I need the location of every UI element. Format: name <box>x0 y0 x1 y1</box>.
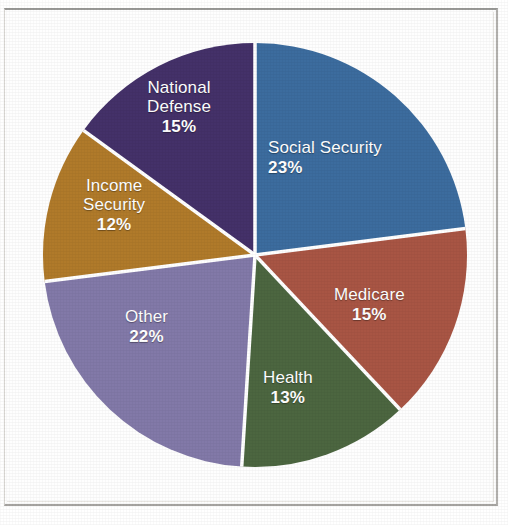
pie-slice-other <box>45 255 255 467</box>
pie-slice-social-security <box>255 43 465 255</box>
pie-chart-svg <box>0 0 508 525</box>
pie-chart: Social Security 23% Medicare 15% Health … <box>0 0 508 525</box>
